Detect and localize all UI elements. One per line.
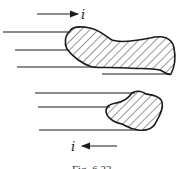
bottom-current-label: i [71, 139, 75, 154]
figure-caption: Fig. 6.33 [72, 163, 112, 169]
top-current-label: i [81, 7, 85, 22]
bottom-hatched-region [106, 91, 162, 130]
bottom-current-arrow: i [71, 139, 117, 154]
diagram-canvas: i i Fig. 6.33 [0, 0, 181, 169]
top-current-arrow: i [37, 7, 85, 22]
